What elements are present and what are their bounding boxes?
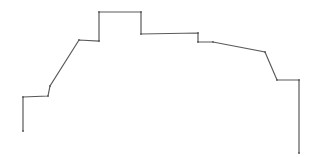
vertex-dot: [298, 79, 300, 81]
vertex-dot: [140, 33, 142, 35]
vertex-dot: [197, 41, 199, 43]
vertex-dot: [49, 85, 51, 87]
vertex-dot: [212, 41, 214, 43]
vertex-dot: [98, 40, 100, 42]
diagram-canvas: [0, 0, 319, 157]
vertex-dot: [78, 39, 80, 41]
vertex-dot: [298, 152, 300, 154]
profile-outline-line: [23, 12, 299, 153]
vertex-dot: [22, 130, 24, 132]
vertex-dot: [276, 79, 278, 81]
vertex-markers: [22, 11, 300, 154]
vertex-dot: [47, 95, 49, 97]
stepped-profile-diagram: [0, 0, 319, 157]
vertex-dot: [197, 32, 199, 34]
vertex-dot: [22, 96, 24, 98]
vertex-dot: [264, 51, 266, 53]
vertex-dot: [98, 11, 100, 13]
vertex-dot: [140, 11, 142, 13]
